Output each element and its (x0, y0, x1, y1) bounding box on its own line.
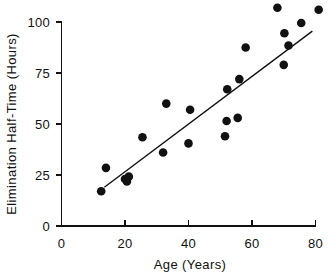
y-tick-marks (56, 22, 62, 226)
data-point (235, 75, 244, 84)
regression-line (104, 31, 312, 187)
data-point (102, 164, 111, 173)
data-point (297, 19, 306, 28)
data-point (241, 43, 250, 52)
x-tick-label-40: 40 (181, 236, 196, 251)
x-tick-marks (62, 220, 316, 226)
x-axis-title: Age (Years) (154, 257, 227, 272)
data-point (162, 99, 171, 108)
data-point (221, 132, 230, 141)
data-point (314, 5, 323, 14)
y-axis-title: Elimination Half-Time (Hours) (4, 33, 19, 215)
data-point (138, 133, 147, 142)
x-tick-label-0: 0 (58, 236, 66, 251)
y-tick-label-0: 0 (42, 219, 50, 234)
x-tick-label-60: 60 (244, 236, 259, 251)
y-tick-label-50: 50 (35, 117, 50, 132)
y-tick-label-25: 25 (35, 168, 50, 183)
data-point (184, 139, 193, 148)
y-tick-label-100: 100 (27, 15, 50, 30)
y-tick-label-75: 75 (35, 66, 50, 81)
plot-canvas: 100 75 50 25 0 0 20 40 60 80 Age (Years)… (0, 0, 336, 274)
data-point (186, 105, 195, 114)
scatter-plot-figure: 100 75 50 25 0 0 20 40 60 80 Age (Years)… (0, 0, 336, 274)
data-point (233, 114, 242, 123)
data-point (97, 187, 106, 196)
data-point (280, 29, 289, 38)
data-point (284, 41, 293, 50)
data-point (159, 148, 168, 157)
data-point (223, 85, 232, 94)
data-point (279, 61, 288, 70)
data-point (125, 172, 134, 181)
data-point (273, 3, 282, 12)
x-tick-label-80: 80 (308, 236, 323, 251)
data-point (222, 117, 231, 126)
x-tick-label-20: 20 (117, 236, 132, 251)
